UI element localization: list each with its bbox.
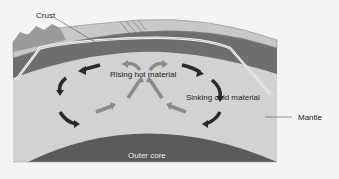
rising-label: Rising hot material xyxy=(110,70,176,79)
crust-label: Crust xyxy=(36,11,56,20)
convection-diagram: Crust Rising hot material Sinking cold m… xyxy=(0,0,339,179)
outer-core-label: Outer core xyxy=(128,151,166,160)
mantle-label: Mantle xyxy=(298,113,323,122)
sinking-label: Sinking cold material xyxy=(186,93,260,102)
